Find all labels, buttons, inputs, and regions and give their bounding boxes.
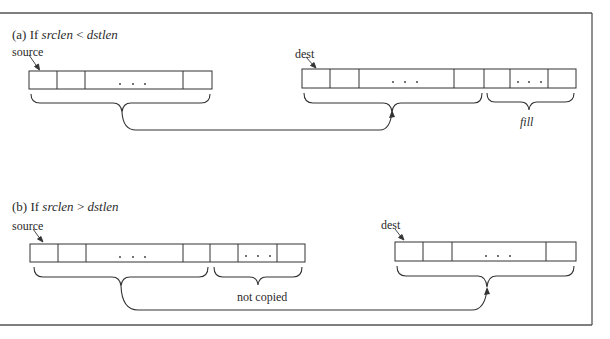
panel-b-source-brace bbox=[34, 267, 208, 286]
panel-b-dest-label: dest bbox=[381, 218, 400, 232]
panel-a-copy-connector bbox=[122, 112, 392, 130]
panel-a-fill-label: fill bbox=[520, 115, 533, 129]
panel-b-connector-arrowhead-icon bbox=[484, 287, 490, 295]
panel-b-copy-connector bbox=[121, 286, 487, 310]
panel-b-dest-dots bbox=[485, 255, 511, 257]
panel-a-dest-brace bbox=[304, 93, 482, 112]
panel-b-not-copied-brace bbox=[214, 267, 302, 285]
panel-a-source-brace bbox=[31, 94, 210, 112]
panel-b-source-dots bbox=[119, 255, 271, 258]
panel-a-dest-label: dest bbox=[295, 47, 314, 61]
panel-b-dest-brace bbox=[397, 266, 574, 287]
panel-a-source-array bbox=[29, 71, 212, 89]
panel-a-source-dots bbox=[119, 83, 146, 85]
panel-b-source-label: source bbox=[12, 219, 43, 233]
panel-b-dest-array bbox=[395, 242, 576, 261]
panel-a-source-label: source bbox=[12, 45, 43, 59]
panel-a-dest-array bbox=[302, 69, 576, 88]
panel-b-not-copied-label: not copied bbox=[237, 290, 287, 304]
figure-stage: (a) If srclen < dstlen source dest fill … bbox=[0, 0, 610, 339]
panel-a-heading: (a) If srclen < dstlen bbox=[12, 28, 118, 42]
panel-b-heading: (b) If srclen > dstlen bbox=[12, 200, 119, 214]
panel-a-dest-dots bbox=[392, 81, 542, 83]
panel-b-source-array bbox=[30, 244, 305, 262]
panel-a-fill-brace bbox=[487, 93, 574, 110]
